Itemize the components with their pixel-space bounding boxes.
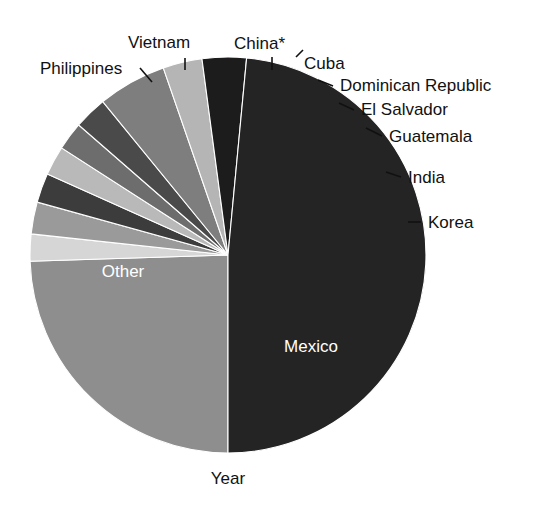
slice-label-philippines: Philippines xyxy=(40,59,122,78)
slice-label-mexico: Mexico xyxy=(284,337,338,356)
axis-label-year: Year xyxy=(211,469,246,488)
chart-canvas: MexicoKoreaIndiaGuatemalaEl SalvadorDomi… xyxy=(0,0,547,518)
slice-label-other: Other xyxy=(102,262,145,281)
slice-label-korea: Korea xyxy=(428,213,474,232)
pie-chart-figure: MexicoKoreaIndiaGuatemalaEl SalvadorDomi… xyxy=(0,0,547,518)
slice-label-india: India xyxy=(408,168,445,187)
slice-label-cuba: Cuba xyxy=(304,54,345,73)
slice-label-dominican-republic: Dominican Republic xyxy=(340,76,492,95)
slice-label-guatemala: Guatemala xyxy=(389,127,473,146)
slice-label-el-salvador: El Salvador xyxy=(361,100,448,119)
slice-label-china: China* xyxy=(234,34,285,53)
slice-label-vietnam: Vietnam xyxy=(128,33,190,52)
